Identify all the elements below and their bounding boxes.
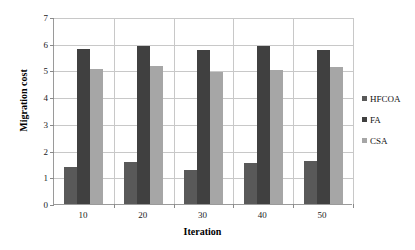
y-axis-tick-label: 3: [44, 120, 49, 130]
x-gridline: [233, 18, 234, 205]
bar-csa[interactable]: [270, 70, 283, 204]
x-axis-tick-label: 20: [123, 210, 163, 220]
legend-item-fa[interactable]: FA: [362, 109, 414, 130]
x-axis-tick: [114, 204, 115, 208]
x-gridline: [114, 18, 115, 205]
bar-group: [304, 17, 343, 204]
x-axis-tick-label: 30: [183, 210, 223, 220]
bar-csa[interactable]: [330, 67, 343, 204]
y-axis-tick-label: 7: [44, 13, 49, 23]
y-axis-tick: [50, 98, 54, 99]
bar-hfcoa[interactable]: [64, 167, 77, 204]
legend-label: CSA: [370, 136, 388, 146]
x-axis-title: Iteration: [53, 226, 352, 237]
x-axis-tick: [174, 204, 175, 208]
y-axis-tick-label: 0: [44, 200, 49, 210]
legend-label: HFCOA: [370, 94, 401, 104]
y-axis-tick: [50, 125, 54, 126]
bar-fa[interactable]: [257, 46, 270, 204]
y-axis-tick-label: 1: [44, 173, 49, 183]
x-axis-tick: [293, 204, 294, 208]
x-axis-tick: [353, 204, 354, 208]
legend-label: FA: [370, 115, 381, 125]
x-axis-tick-label: 50: [302, 210, 342, 220]
y-axis-tick-label: 6: [44, 40, 49, 50]
bar-fa[interactable]: [197, 50, 210, 204]
y-axis-tick-label: 2: [44, 147, 49, 157]
x-axis-tick: [233, 204, 234, 208]
bar-hfcoa[interactable]: [304, 161, 317, 204]
bar-group: [124, 17, 163, 204]
y-axis-tick: [50, 205, 54, 206]
x-axis-tick-label: 40: [242, 210, 282, 220]
x-gridline: [353, 18, 354, 205]
bar-hfcoa[interactable]: [184, 170, 197, 204]
legend-swatch-icon: [362, 117, 367, 122]
bar-hfcoa[interactable]: [124, 162, 137, 204]
plot-area: 01234567: [53, 18, 352, 205]
legend-swatch-icon: [362, 96, 367, 101]
x-axis-tick-label: 10: [63, 210, 103, 220]
bar-fa[interactable]: [317, 50, 330, 204]
y-axis-tick-label: 4: [44, 93, 49, 103]
bar-csa[interactable]: [90, 69, 103, 204]
legend-item-csa[interactable]: CSA: [362, 130, 414, 151]
migration-cost-bar-chart: Migration cost 01234567 Iteration HFCOAF…: [0, 0, 415, 250]
x-gridline: [293, 18, 294, 205]
bar-hfcoa[interactable]: [244, 163, 257, 204]
y-axis-tick: [50, 45, 54, 46]
legend-item-hfcoa[interactable]: HFCOA: [362, 88, 414, 109]
y-axis-tick: [50, 71, 54, 72]
bar-fa[interactable]: [77, 49, 90, 204]
y-axis-tick-label: 5: [44, 66, 49, 76]
x-gridline: [174, 18, 175, 205]
y-axis-tick: [50, 18, 54, 19]
y-axis-title: Migration cost: [18, 41, 29, 161]
bar-group: [244, 17, 283, 204]
bar-fa[interactable]: [137, 46, 150, 204]
bar-csa[interactable]: [150, 66, 163, 204]
legend-swatch-icon: [362, 138, 367, 143]
y-axis-tick: [50, 178, 54, 179]
bar-group: [184, 17, 223, 204]
chart-legend: HFCOAFACSA: [362, 88, 414, 151]
y-axis-tick: [50, 152, 54, 153]
bar-group: [64, 17, 103, 204]
bar-csa[interactable]: [210, 72, 223, 204]
